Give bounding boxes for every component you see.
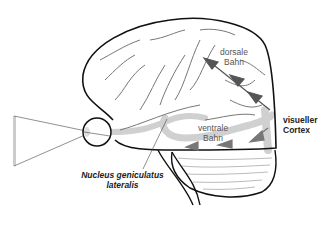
cerebellum-folia [178, 158, 272, 189]
label-ventral-path: ventrale Bahn [193, 123, 233, 143]
label-dorsal-path: dorsale Bahn [214, 47, 254, 67]
label-lgn: Nucleus geniculatus lateralis [60, 170, 185, 190]
visual-pathway-band [110, 110, 272, 150]
cerebellum-outline [172, 150, 276, 197]
label-visual-cortex: visueller Cortex [283, 115, 318, 135]
